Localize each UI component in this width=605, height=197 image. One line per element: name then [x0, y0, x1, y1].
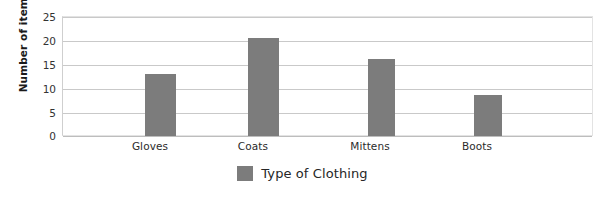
bar-chart: Number of items 25 20 15 10 5 0 Gloves C… — [0, 0, 605, 197]
legend-label: Type of Clothing — [261, 166, 367, 181]
legend-swatch-icon — [237, 166, 253, 181]
bar-gloves — [145, 74, 176, 136]
y-tick-label-0: 0 — [34, 131, 56, 141]
y-tick-label-25: 25 — [34, 12, 56, 22]
chart-legend: Type of Clothing — [0, 166, 605, 181]
gridline-0-baseline — [63, 136, 592, 137]
x-tick-label-mittens: Mittens — [340, 140, 400, 152]
bar-mittens — [368, 59, 395, 136]
bars-layer — [62, 16, 593, 136]
bar-coats — [248, 38, 279, 136]
y-tick-label-20: 20 — [34, 36, 56, 46]
y-tick-label-10: 10 — [34, 84, 56, 94]
x-tick-label-gloves: Gloves — [120, 140, 180, 152]
x-tick-label-coats: Coats — [223, 140, 283, 152]
y-tick-label-5: 5 — [34, 108, 56, 118]
bar-boots — [474, 95, 502, 136]
y-tick-label-15: 15 — [34, 60, 56, 70]
x-tick-label-boots: Boots — [447, 140, 507, 152]
